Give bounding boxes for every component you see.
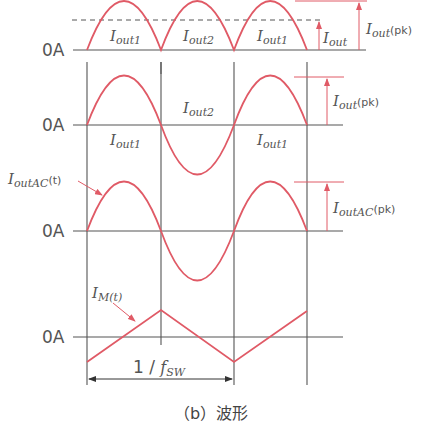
curve-pointer-arrow: [78, 181, 102, 195]
segment-label-iout1: Iout1: [109, 27, 141, 47]
panel-output-ac-current: 0A IoutAC(t) IoutAC(pk): [7, 170, 395, 281]
zero-label: 0A: [42, 221, 65, 241]
segment-label-iout1: Iout1: [256, 27, 288, 47]
triangle-waveform: [87, 310, 307, 362]
peak-current-label: Iout(pk): [332, 92, 379, 112]
waveform-diagram: 0A Iout1 Iout2 Iout1 Iout Iout(pk) 0A Io…: [0, 0, 422, 427]
average-current-label: Iout: [322, 29, 348, 49]
panel-output-current: 0A Iout1 Iout2 Iout1 Iout(pk): [42, 76, 379, 175]
curve-pointer-arrow: [113, 303, 135, 321]
period-label: 1 / fSW: [133, 357, 187, 379]
figure-caption: （b）波形: [174, 404, 248, 423]
zero-label: 0A: [42, 327, 65, 347]
segment-label-iout2: Iout2: [182, 27, 214, 47]
segment-label-iout1: Iout1: [109, 131, 141, 151]
ac-peak-current-label: IoutAC(pk): [332, 199, 395, 219]
zero-label: 0A: [42, 115, 65, 135]
zero-label: 0A: [42, 40, 65, 60]
im-curve-label: IM(t): [91, 284, 122, 304]
segment-label-iout1: Iout1: [256, 131, 288, 151]
ioutac-curve-label: IoutAC(t): [7, 170, 61, 190]
segment-label-iout2: Iout2: [182, 99, 214, 119]
panel-rectified-output-current: 0A Iout1 Iout2 Iout1 Iout Iout(pk): [42, 1, 412, 60]
peak-current-label: Iout(pk): [365, 20, 412, 40]
